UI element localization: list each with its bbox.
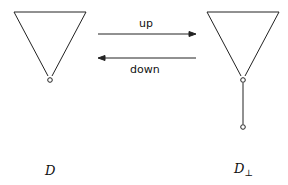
down-label: down: [130, 63, 160, 76]
right-triangle: [207, 12, 279, 129]
left-math-label: D: [45, 163, 55, 178]
right-math-label: D⊥: [234, 161, 253, 176]
left-label-text: D: [45, 163, 55, 178]
down-arrow: [98, 56, 196, 61]
right-label-subscript: ⊥: [244, 168, 252, 178]
right-apex-node: [241, 78, 246, 83]
left-apex-node: [48, 78, 53, 83]
up-arrow: [98, 32, 196, 37]
up-label: up: [139, 17, 153, 30]
bottom-node: [241, 125, 246, 130]
left-triangle: [14, 12, 86, 82]
right-label-text: D: [234, 161, 244, 176]
